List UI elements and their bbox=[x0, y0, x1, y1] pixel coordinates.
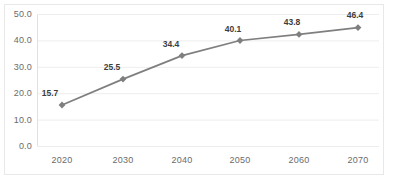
data-label-2040: 34.4 bbox=[154, 39, 188, 49]
x-axis-tick-2060: 2060 bbox=[279, 155, 319, 165]
marker-2060 bbox=[296, 31, 303, 38]
x-axis-tick-2050: 2050 bbox=[220, 155, 260, 165]
marker-2050 bbox=[237, 37, 244, 44]
x-axis-tick-2070: 2070 bbox=[338, 155, 378, 165]
marker-2030 bbox=[120, 76, 127, 83]
y-axis-tick-20: 20.0 bbox=[2, 88, 32, 98]
y-axis-tick-50: 50.0 bbox=[2, 9, 32, 19]
line-chart: 50.0 40.0 30.0 20.0 10.0 0.0 2020 2030 2… bbox=[0, 0, 393, 178]
data-label-2060: 43.8 bbox=[275, 17, 309, 27]
x-axis-tick-2020: 2020 bbox=[42, 155, 82, 165]
data-label-2030: 25.5 bbox=[95, 62, 129, 72]
y-axis-tick-30: 30.0 bbox=[2, 62, 32, 72]
x-axis-tick-2040: 2040 bbox=[162, 155, 202, 165]
x-axis-tick-2030: 2030 bbox=[103, 155, 143, 165]
y-axis-tick-10: 10.0 bbox=[2, 115, 32, 125]
marker-2070 bbox=[355, 24, 362, 31]
y-axis-tick-0: 0.0 bbox=[2, 141, 32, 151]
data-label-2070: 46.4 bbox=[338, 10, 372, 20]
marker-2040 bbox=[179, 52, 186, 59]
gridlines bbox=[38, 15, 379, 147]
y-axis-tick-40: 40.0 bbox=[2, 35, 32, 45]
data-label-2050: 40.1 bbox=[216, 24, 250, 34]
marker-2020 bbox=[59, 102, 66, 109]
data-label-2020: 15.7 bbox=[33, 88, 67, 98]
